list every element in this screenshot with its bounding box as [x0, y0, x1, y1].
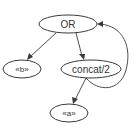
- node-or-label: OR: [61, 19, 76, 30]
- arrowhead-or-to-b: [27, 53, 33, 60]
- arrowhead-concat-to-or: [97, 21, 103, 27]
- node-concat[interactable]: concat/2: [61, 60, 121, 78]
- edge-concat-to-a: [75, 78, 86, 100]
- node-concat-label: concat/2: [72, 64, 110, 75]
- node-or[interactable]: OR: [39, 15, 97, 33]
- edge-or-to-b: [31, 33, 56, 56]
- node-b-label: «b»: [15, 65, 29, 74]
- arrowhead-concat-to-a: [72, 97, 78, 104]
- edge-or-to-concat: [76, 33, 82, 56]
- node-a[interactable]: «a»: [50, 104, 88, 122]
- node-a-label: «a»: [62, 109, 76, 118]
- graph-canvas: OR «b» concat/2 «a»: [0, 0, 139, 138]
- arrowhead-or-to-concat: [79, 54, 85, 60]
- node-b[interactable]: «b»: [3, 60, 41, 78]
